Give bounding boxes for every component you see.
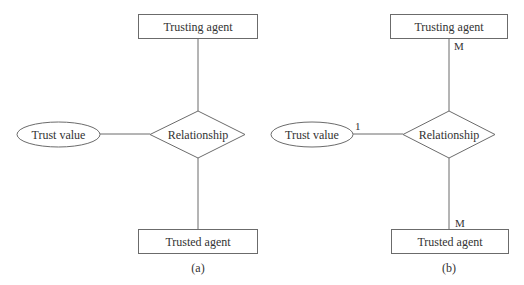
entity-label: Trusting agent	[163, 20, 233, 34]
entity-trusted-agent-a: Trusted agent	[139, 230, 258, 254]
cardinality-trusting: M	[454, 40, 464, 52]
relationship-diamond-a: Relationship	[150, 111, 245, 158]
attribute-label: Trust value	[285, 128, 339, 142]
diagram-b: Trusting agent M Relationship Trust valu…	[271, 15, 509, 276]
cardinality-attribute: 1	[355, 120, 361, 132]
relationship-label: Relationship	[168, 128, 229, 142]
attribute-trust-value-a: Trust value	[17, 122, 100, 147]
entity-trusted-agent-b: Trusted agent	[392, 230, 509, 254]
relationship-label: Relationship	[419, 128, 480, 142]
er-diagram-canvas: Trusting agent Relationship Trust value …	[0, 0, 524, 285]
entity-label: Trusting agent	[414, 20, 484, 34]
caption-a: (a)	[191, 261, 204, 275]
attribute-trust-value-b: Trust value	[271, 122, 353, 147]
attribute-label: Trust value	[32, 128, 86, 142]
relationship-diamond-b: Relationship	[403, 111, 495, 158]
entity-label: Trusted agent	[417, 235, 483, 249]
cardinality-trusted: M	[455, 217, 465, 229]
entity-trusting-agent-b: Trusting agent	[391, 15, 508, 39]
diagram-a: Trusting agent Relationship Trust value …	[17, 15, 258, 276]
caption-b: (b)	[442, 261, 456, 275]
entity-label: Trusted agent	[165, 235, 231, 249]
entity-trusting-agent-a: Trusting agent	[139, 15, 258, 39]
